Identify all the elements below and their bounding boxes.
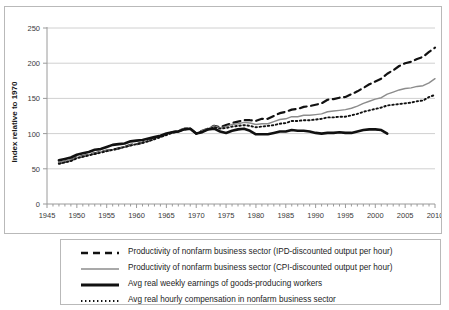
legend-item-2: Avg real weekly earnings of goods-produc…: [79, 277, 322, 292]
svg-text:2010: 2010: [427, 211, 441, 220]
figure-container: 050100150200250 194519501955196019651970…: [0, 0, 449, 310]
legend-label-3: Avg real hourly compensation in nonfarm …: [128, 296, 336, 304]
svg-text:100: 100: [27, 130, 40, 139]
data-series: [59, 48, 435, 164]
svg-text:1985: 1985: [277, 211, 294, 220]
plot-frame: 050100150200250 194519501955196019651970…: [4, 6, 442, 234]
line-chart: 050100150200250 194519501955196019651970…: [5, 7, 441, 233]
svg-text:1945: 1945: [39, 211, 56, 220]
svg-text:1995: 1995: [337, 211, 354, 220]
thin-gray-line-key: [79, 263, 121, 275]
svg-text:250: 250: [27, 24, 40, 33]
svg-text:1955: 1955: [98, 211, 115, 220]
svg-text:2005: 2005: [397, 211, 414, 220]
legend-label-2: Avg real weekly earnings of goods-produc…: [128, 280, 322, 288]
svg-text:1975: 1975: [218, 211, 235, 220]
svg-text:0: 0: [36, 200, 40, 209]
svg-text:50: 50: [32, 165, 40, 174]
svg-text:1990: 1990: [307, 211, 324, 220]
legend: Productivity of nonfarm business sector …: [60, 239, 441, 305]
legend-item-0: Productivity of nonfarm business sector …: [79, 245, 392, 260]
y-axis-ticks: 050100150200250: [27, 24, 47, 209]
svg-text:1970: 1970: [188, 211, 205, 220]
svg-text:1980: 1980: [248, 211, 265, 220]
svg-text:150: 150: [27, 94, 40, 103]
legend-item-3: Avg real hourly compensation in nonfarm …: [79, 293, 336, 308]
svg-text:1965: 1965: [158, 211, 175, 220]
y-axis-title: Index relative to 1970: [10, 81, 19, 162]
legend-label-0: Productivity of nonfarm business sector …: [128, 248, 392, 256]
svg-text:1960: 1960: [128, 211, 145, 220]
svg-text:1950: 1950: [69, 211, 86, 220]
svg-text:2000: 2000: [367, 211, 384, 220]
gridlines: [47, 27, 435, 204]
dotted-line-key: [79, 295, 121, 307]
legend-label-1: Productivity of nonfarm business sector …: [128, 264, 392, 272]
thick-black-line-key: [79, 279, 121, 291]
svg-text:200: 200: [27, 59, 40, 68]
legend-item-1: Productivity of nonfarm business sector …: [79, 261, 392, 276]
x-axis-ticks: 1945195019551960196519701975198019851990…: [39, 204, 441, 220]
dashed-line-key: [79, 247, 121, 259]
